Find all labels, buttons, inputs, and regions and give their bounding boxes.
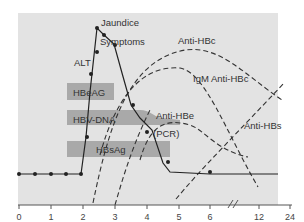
tick-1: 1 [48, 212, 53, 222]
jaundice-label: Jaundice [101, 17, 139, 28]
pcr-label: (PCR) [153, 128, 179, 139]
plot-area [18, 13, 278, 205]
tick-24: 24 [285, 212, 295, 222]
x-axis-ticks [19, 205, 290, 209]
tick-4: 4 [144, 212, 149, 222]
hbvdna-label: HBV-DNA [73, 114, 116, 125]
serology-chart: 0 1 2 3 4 5 6 12 24 Months after exposur… [0, 0, 304, 222]
anti-hbs-label: Anti-HBs [244, 120, 282, 131]
symptoms-label: Symptoms [100, 36, 145, 47]
tick-12: 12 [254, 212, 264, 222]
hbeag-label: HBeAG [73, 87, 105, 98]
anti-hbe-label: Anti-HBe [156, 110, 194, 121]
anti-hbc-label: Anti-HBc [178, 35, 216, 46]
tick-2: 2 [80, 212, 85, 222]
alt-label: ALT [74, 57, 91, 68]
tick-3: 3 [112, 212, 117, 222]
tick-5: 5 [176, 212, 181, 222]
tick-6: 6 [207, 212, 212, 222]
hbsag-label: HBsAg [96, 144, 126, 155]
tick-0: 0 [16, 212, 21, 222]
igm-anti-hbc-label: IgM Anti-HBc [193, 73, 249, 84]
